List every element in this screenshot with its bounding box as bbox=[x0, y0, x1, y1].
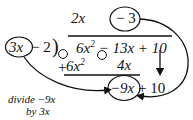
divisor-circled-term: 3x bbox=[9, 40, 23, 55]
quotient-term-1: 2x bbox=[71, 11, 85, 26]
long-division-figure: 2x − 3 3x − 2 ) 6x2 − 13x + 10 + 6x2 4x … bbox=[0, 0, 193, 120]
remainder-rest: + 10 bbox=[138, 81, 165, 96]
annotation-line-2: by 3x bbox=[26, 106, 50, 117]
remainder-circled-term: −9x bbox=[110, 81, 134, 96]
subtract-product-term2: 4x bbox=[117, 58, 131, 73]
annotation-line-1: divide −9x bbox=[8, 94, 55, 105]
dividend-expression: 6x2 − 13x + 10 bbox=[76, 40, 167, 56]
division-bracket: ) bbox=[52, 36, 59, 56]
subtract-product-term1: 6x2 bbox=[66, 58, 85, 74]
quotient-term-2-circled: − 3 bbox=[116, 11, 136, 26]
divisor-rest: − 2 bbox=[31, 40, 51, 55]
